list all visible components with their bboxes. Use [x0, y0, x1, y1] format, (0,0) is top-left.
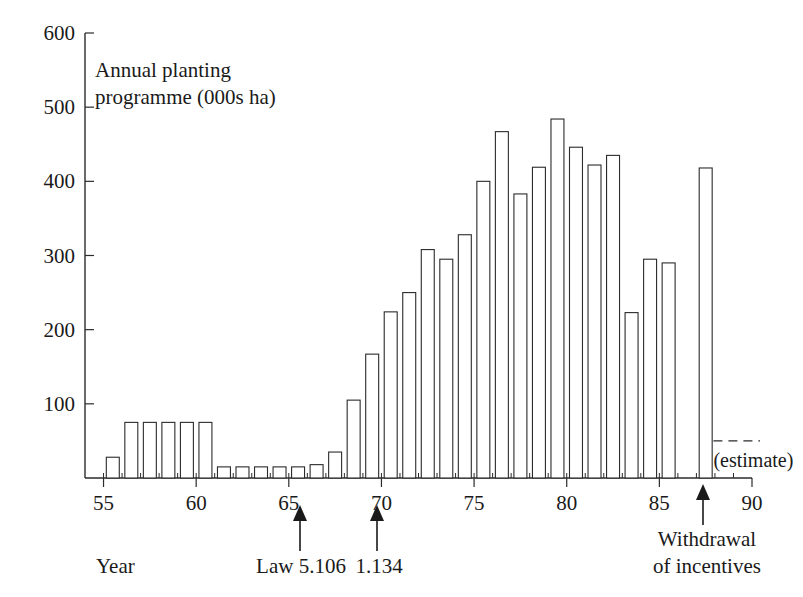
bar-60	[199, 422, 212, 478]
chart-title-line1: Annual planting	[95, 58, 231, 82]
annual-planting-bar-chart: 600500400300200100 5560657075808590 (est…	[0, 0, 803, 597]
bar-76	[495, 132, 508, 478]
x-axis-minor-ticks	[104, 473, 734, 478]
bar-82	[607, 155, 620, 478]
x-tick-label: 60	[186, 491, 207, 515]
bar-65	[292, 467, 305, 478]
y-tick-label: 300	[44, 244, 76, 268]
bar-71	[403, 293, 416, 478]
y-tick-label: 400	[44, 169, 76, 193]
annotation-law-5106: Law 5.106	[256, 505, 346, 578]
x-tick-label: 65	[278, 491, 299, 515]
law-1134-label: 1.134	[355, 554, 403, 578]
bar-84	[644, 259, 657, 478]
withdrawal-label-line2: of incentives	[653, 554, 761, 578]
bar-56	[125, 422, 138, 478]
bar-61	[217, 467, 230, 478]
annotation-law-1134: 1.134	[355, 505, 403, 578]
bar-58	[162, 422, 175, 478]
bar-78	[532, 167, 545, 478]
law-5106-label: Law 5.106	[256, 554, 346, 578]
bar-83	[625, 313, 638, 478]
x-axis-ticks: 5560657075808590	[93, 478, 762, 515]
y-axis-ticks: 600500400300200100	[44, 21, 95, 416]
bar-77	[514, 194, 527, 478]
bar-59	[180, 422, 193, 478]
bar-63	[255, 467, 268, 478]
bar-75	[477, 181, 490, 478]
bar-66	[310, 465, 323, 478]
bar-87	[699, 168, 712, 478]
y-tick-label: 600	[44, 21, 76, 45]
bar-72	[421, 250, 434, 478]
y-tick-label: 200	[44, 318, 76, 342]
bar-62	[236, 467, 249, 478]
bar-74	[458, 235, 471, 478]
bar-85	[662, 263, 675, 478]
x-axis-label-year: Year	[96, 554, 135, 578]
bar-79	[551, 119, 564, 478]
x-tick-label: 55	[93, 491, 114, 515]
chart-title-line2: programme (000s ha)	[95, 85, 276, 109]
x-tick-label: 75	[464, 491, 485, 515]
withdrawal-label-line1: Withdrawal	[658, 527, 756, 551]
bar-80	[570, 147, 583, 478]
bar-67	[329, 452, 342, 478]
estimate-label: (estimate)	[713, 449, 793, 472]
bar-55	[106, 457, 119, 478]
bar-70	[384, 312, 397, 478]
up-arrow-icon	[696, 484, 710, 500]
x-tick-label: 80	[556, 491, 577, 515]
x-tick-label: 90	[742, 491, 763, 515]
y-tick-label: 100	[44, 392, 76, 416]
x-tick-label: 85	[649, 491, 670, 515]
bar-57	[143, 422, 156, 478]
bar-73	[440, 259, 453, 478]
bar-69	[366, 354, 379, 478]
x-tick-label: 70	[371, 491, 392, 515]
bar-81	[588, 165, 601, 478]
bar-64	[273, 467, 286, 478]
y-tick-label: 500	[44, 95, 76, 119]
bar-68	[347, 400, 360, 478]
bar-series	[106, 119, 712, 478]
chart-figure: 600500400300200100 5560657075808590 (est…	[0, 0, 803, 597]
